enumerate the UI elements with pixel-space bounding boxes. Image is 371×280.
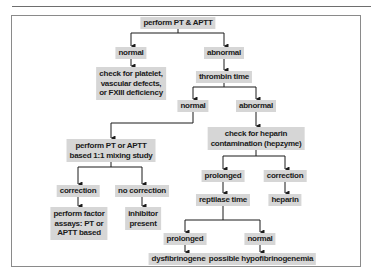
node-line: contamination (hepzyme) (211, 139, 302, 149)
node-inhibitor-present: inhibitor present (125, 207, 161, 230)
node-line: APTT based (53, 228, 104, 238)
node-line: based 1:1 mixing study (70, 151, 153, 161)
node-perform-pt-aptt: perform PT & APTT (140, 17, 215, 29)
node-mixing-study: perform PT or APTT based 1:1 mixing stud… (67, 139, 156, 162)
node-check-platelet: check for platelet, vascular defects, or… (96, 67, 166, 100)
node-mix-correction: correction (57, 185, 100, 197)
node-line: perform PT or APTT (70, 141, 153, 151)
node-line: check for heparin (211, 129, 302, 139)
node-tt-normal: normal (177, 100, 208, 112)
node-heparin-check: check for heparin contamination (hepzyme… (208, 127, 305, 150)
node-tt-abnormal: abnormal (236, 100, 276, 112)
node-thrombin-time: thrombin time (196, 71, 252, 83)
node-line: assays: PT or (53, 219, 104, 229)
node-pt-abnormal: abnormal (204, 47, 244, 59)
node-rep-normal: normal (244, 233, 275, 245)
node-hep-correction: correction (264, 170, 307, 182)
node-rep-prolonged: prolonged (164, 233, 207, 245)
node-line: inhibitor (128, 209, 158, 219)
node-line: perform factor (53, 209, 104, 219)
node-heparin: heparin (268, 194, 301, 206)
node-mix-no-correction: no correction (115, 185, 169, 197)
node-factor-assays: perform factor assays: PT or APTT based (50, 207, 107, 240)
node-reptilase-time: reptilase time (196, 194, 250, 206)
node-line: check for platelet, (99, 69, 163, 79)
node-line: vascular defects, (99, 79, 163, 89)
node-line: or FXIII deficiency (99, 88, 163, 98)
node-line: present (128, 219, 158, 229)
node-pt-normal: normal (115, 47, 146, 59)
node-hypofibrinogenemia: possible hypofibrinogenemia (206, 253, 316, 265)
node-hep-prolonged: prolonged (202, 170, 245, 182)
